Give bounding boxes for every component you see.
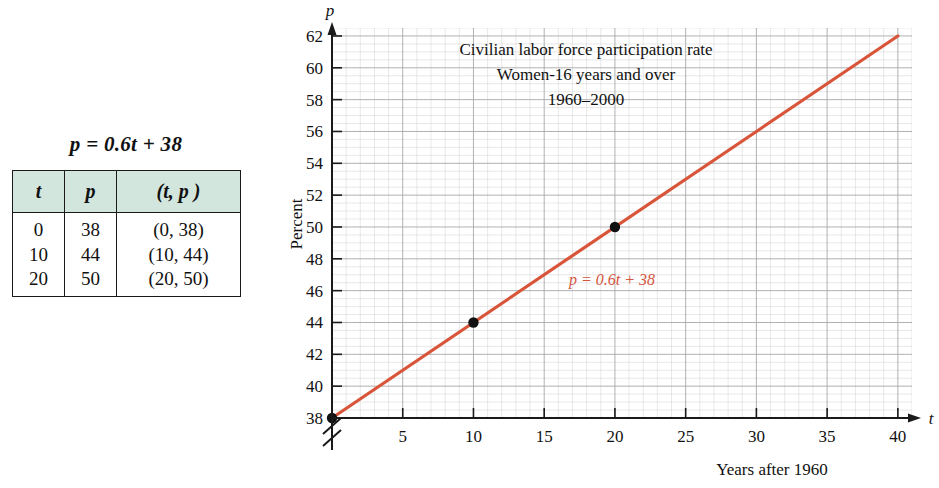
table-row: 0 38 (0, 38) — [13, 213, 241, 242]
cell-tp: (10, 44) — [117, 241, 241, 268]
table-row: 20 50 (20, 50) — [13, 268, 241, 297]
x-tick-label: 15 — [536, 427, 553, 446]
cell-p: 50 — [65, 268, 117, 297]
y-tick-label: 42 — [306, 345, 323, 364]
figure-root: p = 0.6t + 38 t p (t, p ) 0 38 (0, 38) 1… — [0, 0, 939, 488]
x-tick-label: 5 — [398, 427, 407, 446]
table-header-tp: (t, p ) — [117, 171, 241, 213]
y-tick-label: 38 — [306, 409, 323, 428]
table-equation-caption: p = 0.6t + 38 — [12, 132, 240, 157]
table-header-t: t — [13, 171, 65, 213]
y-tick-label: 56 — [306, 122, 323, 141]
table-header-p: p — [65, 171, 117, 213]
x-tick-label: 25 — [677, 427, 694, 446]
cell-t: 0 — [13, 213, 65, 242]
x-tick-label: 20 — [606, 427, 623, 446]
x-axis-tick-labels: 510152025303540 — [398, 427, 906, 446]
x-axis-arrow — [908, 414, 921, 423]
y-axis-symbol: p — [325, 1, 335, 20]
y-tick-label: 40 — [306, 377, 323, 396]
cell-p: 44 — [65, 241, 117, 268]
cell-tp: (0, 38) — [117, 213, 241, 242]
y-tick-label: 52 — [306, 186, 323, 205]
y-tick-label: 54 — [306, 154, 324, 173]
cell-p: 38 — [65, 213, 117, 242]
table-header-row: t p (t, p ) — [13, 171, 241, 213]
y-tick-label: 60 — [306, 59, 323, 78]
y-axis-title: Percent — [288, 198, 306, 249]
line-equation-annotation: p = 0.6t + 38 — [568, 271, 655, 289]
x-tick-label: 10 — [465, 427, 482, 446]
chart-subtitle-years: 1960–2000 — [548, 90, 625, 109]
chart-title: Civilian labor force participation rate — [459, 40, 712, 59]
y-tick-label: 46 — [306, 282, 323, 301]
y-axis-tick-labels: 38404244464850525456586062 — [306, 27, 324, 428]
x-tick-label: 35 — [819, 427, 836, 446]
chart-svg: 38404244464850525456586062 5101520253035… — [288, 0, 939, 488]
cell-tp: (20, 50) — [117, 268, 241, 297]
x-tick-label: 40 — [889, 427, 906, 446]
table-row: 10 44 (10, 44) — [13, 241, 241, 268]
y-tick-label: 48 — [306, 250, 323, 269]
x-axis-symbol: t — [929, 409, 935, 428]
chart-subtitle: Women-16 years and over — [497, 65, 676, 84]
cell-t: 20 — [13, 268, 65, 297]
line-chart: 38404244464850525456586062 5101520253035… — [288, 0, 939, 488]
y-tick-label: 50 — [306, 218, 323, 237]
x-tick-label: 30 — [748, 427, 765, 446]
y-tick-label: 58 — [306, 91, 323, 110]
y-tick-label: 44 — [306, 313, 324, 332]
cell-t: 10 — [13, 241, 65, 268]
y-tick-label: 62 — [306, 27, 323, 46]
data-table: t p (t, p ) 0 38 (0, 38) 10 44 (10, 44) … — [12, 170, 241, 297]
x-axis-title: Years after 1960 — [716, 460, 828, 479]
